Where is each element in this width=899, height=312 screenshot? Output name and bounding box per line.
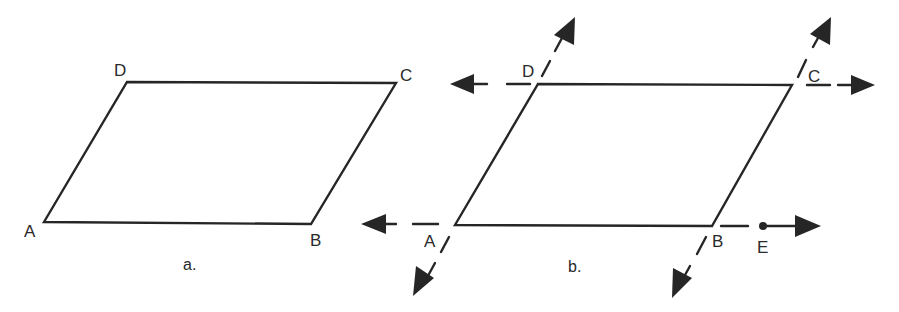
caption-b: b. — [568, 258, 581, 275]
line-ad-dash-up-2 — [555, 38, 562, 51]
line-bc-dash-up-1 — [798, 60, 806, 77]
arrowhead-down-icon — [672, 268, 692, 298]
line-bc-dash-down-2 — [685, 266, 690, 275]
figure-b: D C A B E b. — [361, 17, 875, 298]
vertex-label-c-a: C — [400, 66, 412, 85]
parallelogram-abcd-b — [455, 84, 792, 226]
vertex-label-a-a: A — [24, 222, 36, 241]
vertex-label-d-b: D — [522, 62, 534, 81]
line-bc-dash-up-2 — [813, 38, 818, 47]
point-e-dot — [759, 222, 767, 230]
line-ad-dash-down-1 — [441, 237, 449, 252]
arrowhead-right-icon — [795, 215, 821, 237]
vertex-label-d-a: D — [114, 61, 126, 80]
parallelogram-abcd-a — [44, 82, 396, 224]
vertex-label-b-a: B — [310, 231, 321, 250]
arrowhead-right-icon — [851, 75, 875, 95]
caption-a: a. — [183, 256, 196, 273]
arrowhead-up-icon — [554, 17, 575, 45]
point-label-e: E — [757, 238, 768, 257]
figure-a: D C A B a. — [24, 61, 412, 273]
vertex-label-a-b: A — [424, 232, 436, 251]
line-bc-dash-down-1 — [697, 237, 706, 254]
arrowhead-up-icon — [810, 17, 831, 45]
line-ad-dash-up-1 — [542, 61, 550, 76]
diagram-canvas: D C A B a. — [0, 0, 899, 312]
line-ad-dash-down-2 — [429, 263, 435, 274]
arrowhead-left-icon — [450, 74, 474, 94]
vertex-label-b-b: B — [712, 232, 723, 251]
vertex-label-c-b: C — [808, 67, 820, 86]
arrowhead-left-icon — [361, 214, 386, 234]
